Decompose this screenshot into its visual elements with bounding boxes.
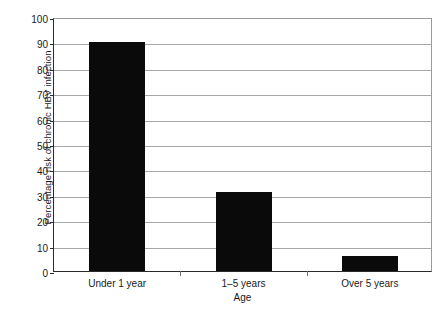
y-tick-label: 40 [37, 166, 48, 177]
y-tick-mark [50, 121, 54, 122]
y-tick-label: 0 [42, 268, 48, 279]
y-tick-mark [50, 146, 54, 147]
y-tick-label: 100 [31, 14, 48, 25]
y-tick-mark [50, 19, 54, 20]
bar [342, 256, 398, 271]
x-tick-mark [180, 271, 181, 276]
bar [216, 192, 272, 271]
y-tick-label: 90 [37, 39, 48, 50]
plot-area: 0102030405060708090100 Under 1 year1–5 y… [53, 18, 432, 272]
y-tick-mark [50, 248, 54, 249]
y-tick-mark [50, 44, 54, 45]
y-tick-label: 50 [37, 141, 48, 152]
x-category-label: 1–5 years [222, 278, 266, 289]
y-tick-mark [50, 70, 54, 71]
x-category-label: Under 1 year [88, 278, 146, 289]
bar [89, 42, 145, 271]
y-tick-label: 10 [37, 242, 48, 253]
y-tick-mark [50, 222, 54, 223]
y-tick-label: 30 [37, 191, 48, 202]
x-category-label: Over 5 years [341, 278, 398, 289]
y-tick-mark [50, 171, 54, 172]
y-tick-label: 80 [37, 64, 48, 75]
y-tick-mark [50, 197, 54, 198]
y-tick-label: 60 [37, 115, 48, 126]
y-tick-label: 20 [37, 217, 48, 228]
x-axis-title: Age [53, 292, 432, 303]
y-tick-mark [50, 95, 54, 96]
bar-chart: Percentage risk of chronic HBV infection… [0, 0, 445, 315]
y-tick-label: 70 [37, 90, 48, 101]
x-tick-mark [307, 271, 308, 276]
y-tick-mark [50, 273, 54, 274]
